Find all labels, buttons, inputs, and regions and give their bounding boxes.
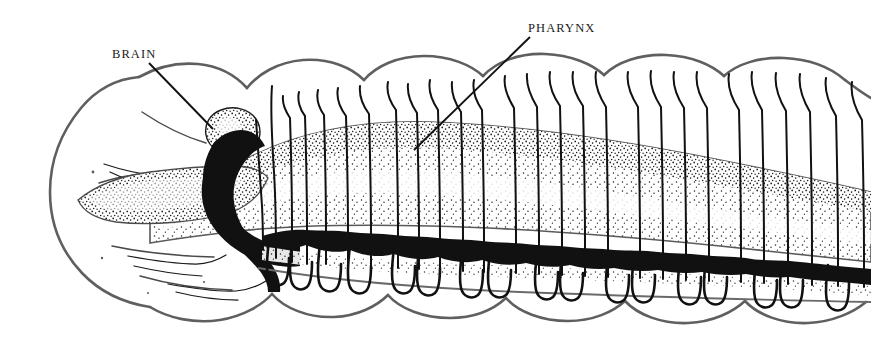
brain-label: BRAIN: [112, 47, 156, 61]
figure-canvas: BRAIN PHARYNX: [0, 0, 871, 354]
earthworm-nervous-system-diagram: BRAIN PHARYNX: [0, 0, 871, 354]
pharynx-label: PHARYNX: [528, 21, 595, 35]
